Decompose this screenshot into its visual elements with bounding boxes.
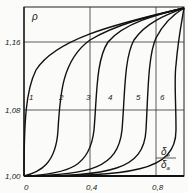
- y-axis-label: ρ: [31, 11, 38, 22]
- x-tick-0: 0: [24, 183, 29, 192]
- curve-label-6: 6: [160, 93, 165, 102]
- x-tick-0-4: 0,4: [86, 183, 98, 192]
- curves: [24, 8, 184, 176]
- ratio-denominator: δa: [161, 159, 171, 171]
- curve-label-2: 2: [58, 93, 64, 102]
- x-tick-0-8: 0,8: [152, 183, 164, 192]
- curve-label-4: 4: [108, 93, 113, 102]
- y-tick-1-08: 1,08: [5, 106, 21, 115]
- chart: δe δa ρ 1 2 3 4 5 6 1,16 1,08 1,00 0 0,4…: [0, 0, 188, 193]
- curve-label-5: 5: [136, 93, 141, 102]
- ratio-numerator: δe: [161, 146, 171, 158]
- curve-label-1: 1: [29, 93, 33, 102]
- curve-2: [24, 8, 184, 176]
- y-tick-1-00: 1,00: [5, 172, 21, 181]
- y-tick-1-16: 1,16: [5, 38, 21, 47]
- curve-label-3: 3: [86, 93, 91, 102]
